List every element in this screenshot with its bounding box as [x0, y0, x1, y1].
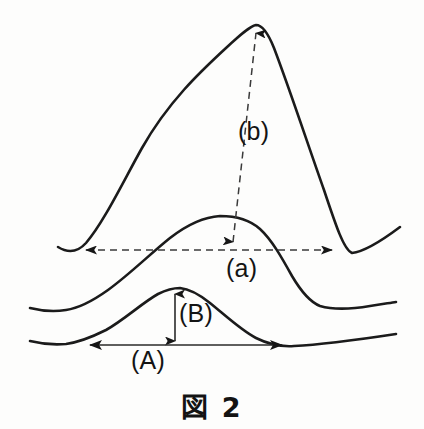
- curve-bottom: [30, 288, 396, 346]
- label-width-A: (A): [131, 348, 165, 373]
- label-tall-curve-b: (b): [238, 119, 269, 144]
- curve-tall-b: [58, 25, 400, 253]
- label-height-B: (B): [179, 301, 213, 326]
- figure-drawing: [0, 0, 424, 429]
- figure-container: (b) (a) (B) (A) 図 2: [0, 0, 424, 429]
- figure-caption: 図 2: [0, 386, 424, 425]
- label-middle-curve-a: (a): [226, 256, 257, 281]
- curve-middle-a: [30, 216, 396, 311]
